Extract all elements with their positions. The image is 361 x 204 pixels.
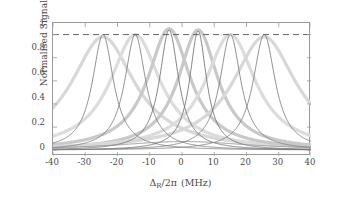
x-tick-label--10: -10: [134, 158, 164, 167]
x-tick-label-30: 30: [263, 158, 293, 167]
y-tick-label-0.2: 0.2: [15, 118, 45, 127]
x-tick-label--40: -40: [37, 158, 67, 167]
x-tick-label--20: -20: [102, 158, 132, 167]
x-tick-label-0: 0: [166, 158, 196, 167]
x-tick-label--30: -30: [69, 158, 99, 167]
y-tick-label-1: 1: [15, 19, 45, 28]
y-tick-label-0.4: 0.4: [15, 93, 45, 102]
x-tick-label-20: 20: [231, 158, 261, 167]
y-tick-label-0.6: 0.6: [15, 68, 45, 77]
y-tick-label-0: 0: [15, 143, 45, 152]
plot-area: [52, 22, 310, 155]
x-axis-label: ΔR/2π(MHz): [0, 177, 361, 190]
figure-container: Normalised Signal 1 0.8 0.6 0.4 0.2 0 -4…: [0, 0, 361, 204]
chart-canvas: [53, 23, 311, 156]
x-axis-label-units: (MHz): [181, 177, 211, 188]
x-axis-label-rest: /2π: [162, 177, 178, 188]
uncertainty-bands-group: [53, 29, 311, 147]
x-tick-label-40: 40: [295, 158, 325, 167]
x-tick-label-10: 10: [198, 158, 228, 167]
y-tick-label-0.8: 0.8: [15, 43, 45, 52]
